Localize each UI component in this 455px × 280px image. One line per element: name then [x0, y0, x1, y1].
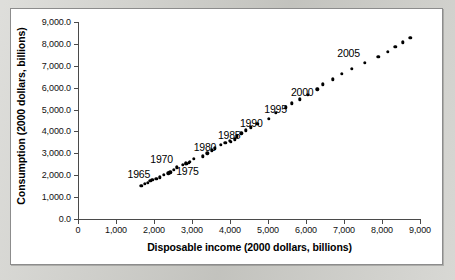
- x-axis-tick-label: 3,000: [181, 225, 203, 235]
- x-axis-tick: [192, 220, 193, 224]
- data-point: [244, 129, 247, 132]
- data-point: [394, 45, 397, 48]
- data-point: [162, 173, 165, 176]
- y-axis-tick: [74, 175, 78, 176]
- x-axis-tick: [420, 220, 421, 224]
- y-axis-tick: [74, 44, 78, 45]
- data-point: [290, 102, 293, 105]
- x-axis-tick-label: 9,000: [409, 225, 431, 235]
- y-axis-tick-label: 5,000.0: [42, 105, 71, 115]
- year-annotation: 2005: [337, 47, 360, 59]
- x-axis-tick: [306, 220, 307, 224]
- data-point: [219, 143, 222, 146]
- y-axis-tick-label: 8,000.0: [42, 39, 71, 49]
- year-annotation: 1990: [240, 117, 263, 129]
- y-axis-tick: [74, 110, 78, 111]
- y-axis-tick-label: 3,000.0: [42, 148, 71, 158]
- y-axis-tick-labels: 0.01,000.02,000.03,000.04,000.05,000.06,…: [0, 0, 71, 280]
- y-axis-line: [78, 22, 79, 220]
- x-axis-tick-label: 1,000: [105, 225, 127, 235]
- y-axis-title: Consumption (2000 dollars, billions): [15, 11, 27, 221]
- data-point: [363, 61, 366, 64]
- data-point: [401, 40, 404, 43]
- y-axis-tick-label: 2,000.0: [42, 170, 71, 180]
- data-point: [376, 55, 379, 58]
- figure-container: 0.01,000.02,000.03,000.04,000.05,000.06,…: [0, 0, 455, 280]
- data-point: [158, 175, 161, 178]
- y-axis-tick: [74, 22, 78, 23]
- x-axis-tick: [154, 220, 155, 224]
- y-axis-tick-label: 4,000.0: [42, 126, 71, 136]
- x-axis-line: [78, 219, 421, 220]
- data-point: [408, 36, 411, 39]
- data-point: [188, 160, 191, 163]
- x-axis-tick: [78, 220, 79, 224]
- x-axis-tick: [116, 220, 117, 224]
- year-annotation: 1975: [176, 165, 199, 177]
- y-axis-tick-label: 6,000.0: [42, 83, 71, 93]
- data-point: [201, 155, 204, 158]
- x-axis-tick: [230, 220, 231, 224]
- x-axis-tick-label: 7,000: [333, 225, 355, 235]
- y-axis-tick-label: 7,000.0: [42, 61, 71, 71]
- year-annotation: 1985: [218, 129, 241, 141]
- x-axis-tick-label: 0: [76, 225, 81, 235]
- y-axis-tick: [74, 88, 78, 89]
- data-point: [340, 72, 343, 75]
- y-axis-tick: [74, 131, 78, 132]
- y-axis-tick-label: 0.0: [59, 214, 71, 224]
- x-axis-tick: [268, 220, 269, 224]
- data-point: [172, 168, 175, 171]
- x-axis-title: Disposable income (2000 dollars, billion…: [78, 241, 421, 253]
- data-point: [386, 50, 389, 53]
- y-axis-tick: [74, 197, 78, 198]
- data-point: [224, 141, 227, 144]
- data-point: [321, 83, 324, 86]
- y-axis-tick-label: 9,000.0: [42, 17, 71, 27]
- x-axis-tick-label: 6,000: [295, 225, 317, 235]
- y-axis-tick: [74, 153, 78, 154]
- data-point: [316, 88, 319, 91]
- data-point: [192, 157, 195, 160]
- y-axis-tick-label: 1,000.0: [42, 192, 71, 202]
- x-axis-tick-label: 5,000: [257, 225, 279, 235]
- year-annotation: 1970: [150, 153, 173, 165]
- year-annotation: 1965: [128, 168, 151, 180]
- data-point: [267, 117, 270, 120]
- year-annotation: 1995: [264, 103, 287, 115]
- y-axis-tick: [74, 66, 78, 67]
- year-annotation: 1980: [194, 141, 217, 153]
- data-point: [331, 78, 334, 81]
- x-axis-tick-label: 8,000: [371, 225, 393, 235]
- data-point: [350, 67, 353, 70]
- year-annotation: 2000: [291, 86, 314, 98]
- scatter-plot: 0.01,000.02,000.03,000.04,000.05,000.06,…: [0, 0, 455, 280]
- x-axis-tick: [344, 220, 345, 224]
- x-axis-tick: [382, 220, 383, 224]
- x-axis-tick-label: 2,000: [143, 225, 165, 235]
- data-point: [169, 171, 172, 174]
- x-axis-tick-label: 4,000: [219, 225, 241, 235]
